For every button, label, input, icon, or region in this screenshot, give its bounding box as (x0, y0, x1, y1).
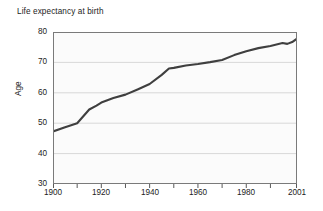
y-tick-label-30: 30 (21, 180, 47, 188)
plot-svg (53, 32, 297, 192)
y-tick-label-50: 50 (21, 119, 47, 127)
chart-figure: Life expectancy at birth Age 80 70 60 50… (0, 0, 323, 211)
x-axis-tick-marks (54, 184, 297, 188)
y-tick-label-80: 80 (21, 28, 47, 36)
y-tick-label-40: 40 (21, 150, 47, 158)
y-tick-label-60: 60 (21, 89, 47, 97)
plot-background (53, 32, 297, 184)
chart-title: Life expectancy at birth (17, 7, 104, 16)
plot-area (53, 32, 297, 184)
y-tick-label-70: 70 (21, 58, 47, 66)
